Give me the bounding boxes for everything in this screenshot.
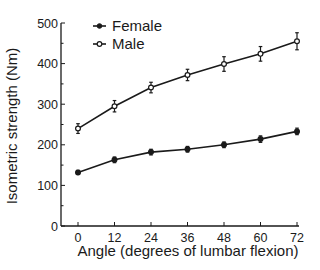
y-tick-label: 400	[37, 57, 58, 71]
series-layer	[76, 33, 300, 175]
y-tick-label: 300	[37, 98, 58, 112]
male-line	[78, 41, 297, 128]
legend-female-marker	[97, 24, 102, 29]
male-point	[295, 39, 300, 44]
legend: Female Male	[93, 17, 162, 52]
line-chart: 0100200300400500 0122436486072 Isometric…	[0, 0, 320, 270]
legend-item-female: Female	[93, 17, 162, 34]
legend-male-label: Male	[112, 35, 145, 52]
female-point	[295, 129, 300, 134]
female-point	[149, 150, 154, 155]
male-point	[76, 126, 81, 131]
series-female	[76, 128, 300, 175]
male-point	[149, 85, 154, 90]
series-male	[76, 33, 300, 134]
male-point	[222, 62, 227, 67]
y-tick-label: 500	[37, 17, 58, 31]
y-tick-label: 200	[37, 138, 58, 152]
y-tick-label: 0	[51, 220, 58, 234]
female-point	[112, 157, 117, 162]
legend-male-marker	[97, 42, 102, 47]
legend-item-male: Male	[93, 35, 145, 52]
x-axis-label: Angle (degrees of lumbar flexion)	[78, 242, 299, 259]
male-point	[185, 73, 190, 78]
male-point	[112, 104, 117, 109]
female-point	[258, 137, 263, 142]
female-point	[76, 170, 81, 175]
female-point	[185, 147, 190, 152]
female-point	[222, 142, 227, 147]
legend-female-label: Female	[112, 17, 162, 34]
y-axis-label: Isometric strength (Nm)	[3, 48, 20, 205]
male-point	[258, 51, 263, 56]
y-tick-label: 100	[37, 179, 58, 193]
